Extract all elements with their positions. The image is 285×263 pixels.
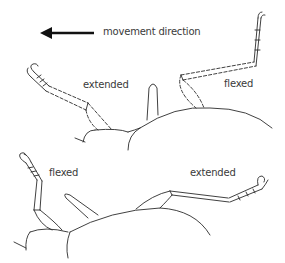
movement-direction-label: movement direction: [103, 27, 200, 37]
top-left-leg-extended: [27, 64, 112, 130]
movement-arrow-icon: [40, 27, 94, 39]
top-flexed-label: flexed: [224, 79, 253, 89]
bottom-beetle-body: [14, 194, 210, 258]
bottom-right-leg-extended: [136, 176, 268, 209]
top-beetle-body: [75, 84, 272, 150]
top-extended-label: extended: [83, 80, 129, 90]
bottom-extended-label: extended: [190, 168, 236, 178]
bottom-left-leg-flexed: [20, 153, 62, 230]
diagram-drawing: [0, 0, 285, 263]
bottom-flexed-label: flexed: [49, 168, 78, 178]
diagram-canvas: movement direction extended flexed flexe…: [0, 0, 285, 263]
